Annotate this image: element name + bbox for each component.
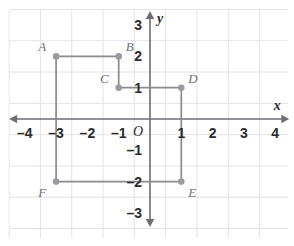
point-label-e: E xyxy=(188,186,196,199)
y-tick-label-neg2: –2 xyxy=(126,175,142,189)
coordinate-plane-canvas xyxy=(0,0,294,246)
vertex-point-c xyxy=(115,84,122,91)
x-tick-label-3: 3 xyxy=(240,126,248,140)
y-tick-label-1: 1 xyxy=(134,81,142,95)
point-label-c: C xyxy=(100,72,109,85)
y-axis-arrow-down xyxy=(146,219,154,227)
vertex-point-a xyxy=(53,53,60,60)
x-tick-label-2: 2 xyxy=(209,126,217,140)
x-axis-arrow-left xyxy=(9,115,17,123)
y-tick-label-neg3: –3 xyxy=(126,206,142,220)
x-tick-label-neg1: –1 xyxy=(111,126,127,140)
origin-label: O xyxy=(133,125,143,139)
coordinate-plane-figure: –4–3–2–11234321–1–2–3OxyABCDEF xyxy=(0,0,294,246)
x-axis-label: x xyxy=(274,99,281,113)
x-tick-label-neg2: –2 xyxy=(80,126,96,140)
point-label-d: D xyxy=(188,72,197,85)
y-axis-arrow-up xyxy=(146,11,154,19)
grid-lines xyxy=(9,9,288,238)
vertex-point-e xyxy=(178,178,185,185)
axes xyxy=(9,11,289,227)
vertex-point-d xyxy=(178,84,185,91)
vertex-point-b xyxy=(115,53,122,60)
y-tick-label-3: 3 xyxy=(134,18,142,32)
y-tick-label-neg1: –1 xyxy=(126,143,142,157)
vertex-point-f xyxy=(53,178,60,185)
x-tick-label-4: 4 xyxy=(271,126,279,140)
point-label-a: A xyxy=(38,40,46,53)
y-tick-label-2: 2 xyxy=(134,49,142,63)
point-label-b: B xyxy=(126,40,134,53)
point-label-f: F xyxy=(38,186,46,199)
x-tick-label-neg3: –3 xyxy=(48,126,64,140)
x-tick-label-neg4: –4 xyxy=(17,126,33,140)
x-axis-arrow-right xyxy=(281,115,289,123)
x-tick-label-1: 1 xyxy=(177,126,185,140)
y-axis-label: y xyxy=(157,12,163,26)
